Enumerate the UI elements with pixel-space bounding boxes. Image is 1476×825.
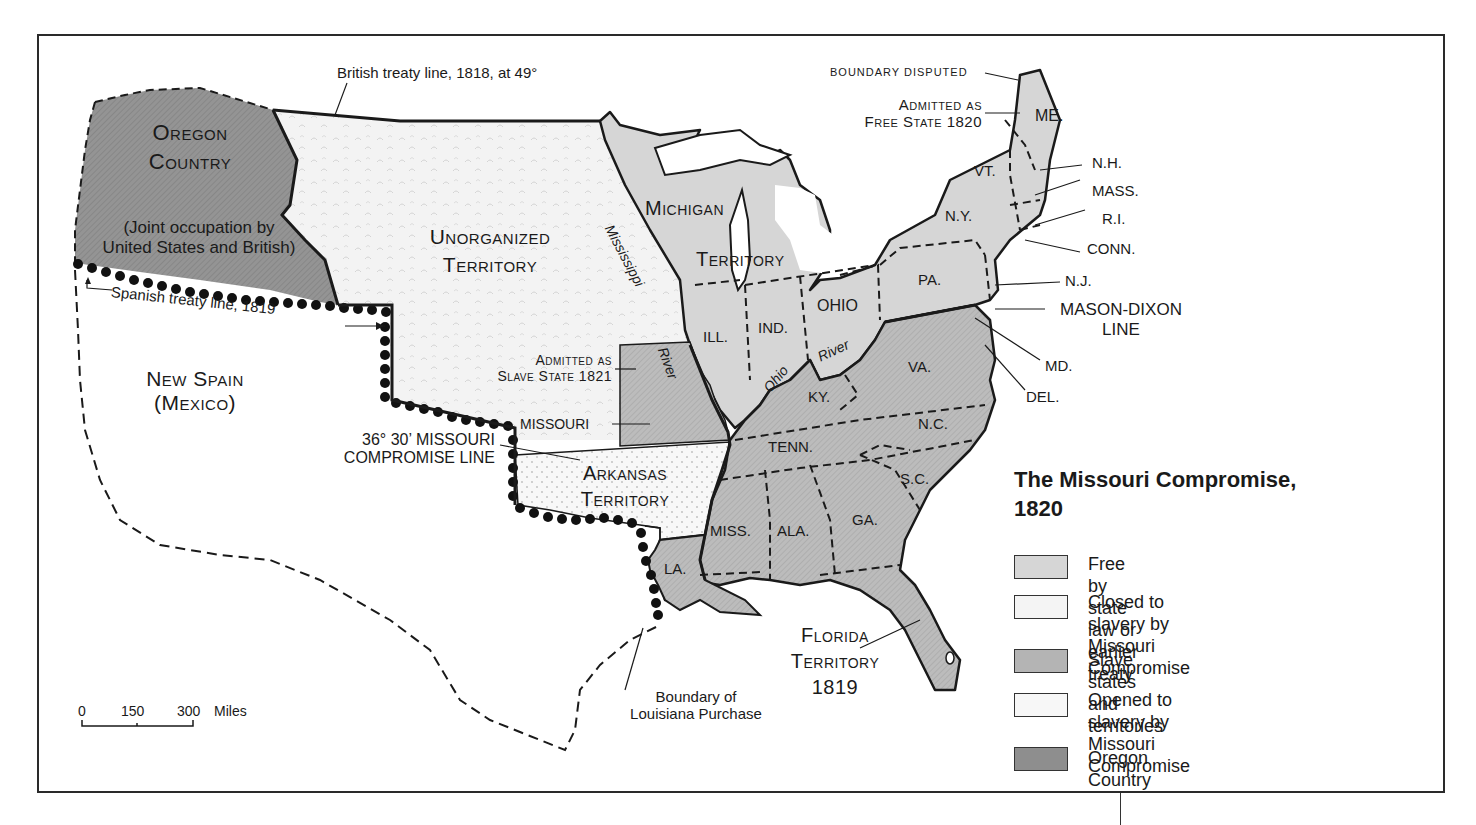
- label-florida-line3: 1819: [775, 676, 895, 699]
- label-state-ohio: OHIO: [817, 297, 858, 315]
- annotation-british-treaty: British treaty line, 1818, at 49°: [337, 64, 537, 81]
- annotation-boundary-disputed: Boundary disputed: [830, 66, 968, 79]
- label-michigan-line1: Michigan: [645, 197, 724, 220]
- annotation-admitted-slave: Admitted as Slave State 1821: [480, 352, 612, 384]
- label-state-me: ME.: [1035, 107, 1063, 125]
- label-state-ga: GA.: [852, 511, 878, 528]
- annotation-compromise-line1: 36° 30’ MISSOURI: [290, 431, 495, 449]
- legend-swatch-oregon: [1014, 747, 1068, 771]
- legend-title-line1: The Missouri Compromise,: [1014, 465, 1296, 494]
- label-state-md: MD.: [1045, 357, 1073, 374]
- label-state-miss: MISS.: [710, 522, 751, 539]
- annotation-admitted-slave-line1: Admitted as: [480, 352, 612, 368]
- label-oregon: Oregon Country: [145, 120, 235, 175]
- label-new-spain-line1: New Spain: [130, 367, 260, 391]
- annotation-louisiana-line2: Louisiana Purchase: [606, 705, 786, 722]
- scale-unit: Miles: [214, 703, 247, 719]
- label-state-nc: N.C.: [918, 415, 948, 432]
- label-new-spain: New Spain (Mexico): [130, 367, 260, 415]
- label-state-va: VA.: [908, 358, 931, 375]
- label-oregon-line2: Country: [145, 149, 235, 174]
- label-state-nh: N.H.: [1092, 154, 1122, 171]
- label-unorganized-line2: Territory: [405, 253, 575, 277]
- label-state-ky: KY.: [808, 388, 830, 405]
- label-state-ri: R.I.: [1102, 210, 1125, 227]
- legend-label-oregon: Oregon Country: [1088, 747, 1151, 791]
- label-oregon-note: (Joint occupation by United States and B…: [84, 218, 314, 257]
- annotation-louisiana-purchase: Boundary of Louisiana Purchase: [606, 688, 786, 723]
- annotation-admitted-slave-line2: Slave State 1821: [480, 368, 612, 384]
- label-state-ind: IND.: [758, 319, 788, 336]
- label-arkansas-line1: Arkansas: [560, 462, 690, 485]
- annotation-admitted-free-line1: Admitted as: [830, 96, 982, 113]
- label-florida-line2: Territory: [775, 650, 895, 673]
- annotation-compromise-line2: COMPROMISE LINE: [290, 449, 495, 467]
- label-new-spain-line2: (Mexico): [130, 391, 260, 415]
- legend-title-line2: 1820: [1014, 494, 1296, 523]
- scale-tick-300: 300: [177, 703, 200, 719]
- legend-swatch-slave: [1014, 649, 1068, 673]
- annotation-compromise-line: 36° 30’ MISSOURI COMPROMISE LINE: [290, 431, 495, 468]
- legend-swatch-closed: [1014, 595, 1068, 619]
- annotation-admitted-free: Admitted as Free State 1820: [830, 96, 982, 131]
- scale-tick-0: 0: [78, 703, 86, 719]
- label-state-ny: N.Y.: [945, 207, 972, 224]
- legend-title: The Missouri Compromise, 1820: [1014, 465, 1296, 523]
- annotation-admitted-free-line2: Free State 1820: [830, 113, 982, 130]
- label-unorganized: Unorganized Territory: [405, 225, 575, 277]
- annotation-mason-dixon-line1: MASON-DIXON: [1046, 300, 1196, 320]
- label-state-conn: CONN.: [1087, 240, 1135, 257]
- label-oregon-line1: Oregon: [145, 120, 235, 145]
- label-state-ill: ILL.: [703, 328, 728, 345]
- label-unorganized-line1: Unorganized: [405, 225, 575, 249]
- label-state-ala: ALA.: [777, 522, 810, 539]
- legend-swatch-free: [1014, 555, 1068, 579]
- label-arkansas-line2: Territory: [560, 488, 690, 511]
- label-state-nj: N.J.: [1065, 272, 1092, 289]
- annotation-mason-dixon-line2: LINE: [1046, 320, 1196, 340]
- annotation-louisiana-line1: Boundary of: [606, 688, 786, 705]
- label-state-la: LA.: [664, 560, 687, 577]
- label-florida-line1: Florida: [775, 624, 895, 647]
- label-state-del: DEL.: [1026, 388, 1059, 405]
- label-michigan-line2: Territory: [696, 248, 785, 271]
- annotation-mason-dixon: MASON-DIXON LINE: [1046, 300, 1196, 339]
- label-state-mass: MASS.: [1092, 182, 1139, 199]
- legend-label-closed-line1: Closed to slavery by: [1088, 591, 1190, 635]
- label-state-missouri: MISSOURI: [520, 416, 589, 432]
- label-oregon-note-line1: (Joint occupation by: [84, 218, 314, 238]
- label-arkansas: Arkansas Territory: [560, 462, 690, 511]
- label-florida: Florida Territory 1819: [775, 624, 895, 699]
- label-state-pa: PA.: [918, 271, 941, 288]
- label-oregon-note-line2: United States and British): [84, 238, 314, 258]
- legend-label-opened-line1: Opened to slavery by: [1088, 689, 1190, 733]
- label-state-sc: S.C.: [900, 470, 929, 487]
- label-state-tenn: TENN.: [768, 438, 813, 455]
- label-state-vt: VT.: [974, 162, 996, 179]
- scale-tick-150: 150: [121, 703, 144, 719]
- legend-swatch-opened: [1014, 693, 1068, 717]
